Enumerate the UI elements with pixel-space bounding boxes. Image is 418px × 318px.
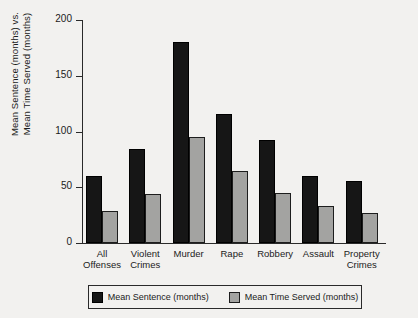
legend-item-sentence: Mean Sentence (months) bbox=[92, 292, 209, 303]
bar-mean-sentence bbox=[216, 114, 232, 243]
y-axis-tick-label: 100 bbox=[14, 125, 72, 136]
chart-legend: Mean Sentence (months) Mean Time Served … bbox=[88, 285, 362, 309]
bar-mean-time-served bbox=[362, 213, 378, 243]
y-axis-title: Mean Sentence (months) vs. Mean Time Ser… bbox=[9, 0, 43, 164]
legend-label-served: Mean Time Served (months) bbox=[245, 292, 359, 302]
y-axis-tick-label: 50 bbox=[14, 180, 72, 191]
y-axis-tick-label: 150 bbox=[14, 69, 72, 80]
y-axis-tick bbox=[76, 132, 82, 133]
y-axis-tick-label: 0 bbox=[14, 236, 72, 247]
bar-group bbox=[259, 20, 291, 243]
plot-area bbox=[83, 20, 386, 243]
legend-label-sentence: Mean Sentence (months) bbox=[108, 292, 209, 302]
bar-chart-figure: Mean Sentence (months) vs. Mean Time Ser… bbox=[0, 0, 418, 318]
bar-group bbox=[346, 20, 378, 243]
bar-group bbox=[129, 20, 161, 243]
bar-group bbox=[216, 20, 248, 243]
black-swatch-icon bbox=[92, 292, 103, 303]
bar-mean-sentence bbox=[346, 181, 362, 243]
bar-mean-time-served bbox=[102, 211, 118, 243]
y-axis-tick bbox=[76, 187, 82, 188]
bar-mean-sentence bbox=[173, 42, 189, 243]
bar-mean-sentence bbox=[86, 176, 102, 243]
y-axis-tick bbox=[76, 243, 82, 244]
legend-item-served: Mean Time Served (months) bbox=[229, 292, 359, 303]
bar-mean-time-served bbox=[232, 171, 248, 243]
bar-mean-time-served bbox=[318, 206, 334, 243]
y-axis-tick bbox=[76, 76, 82, 77]
bar-group bbox=[86, 20, 118, 243]
bar-mean-sentence bbox=[259, 140, 275, 243]
bar-mean-time-served bbox=[275, 193, 291, 243]
bar-mean-sentence bbox=[302, 176, 318, 243]
gray-swatch-icon bbox=[229, 292, 240, 303]
bar-mean-time-served bbox=[145, 194, 161, 243]
y-axis-tick-label: 200 bbox=[14, 13, 72, 24]
y-axis-tick bbox=[76, 20, 82, 21]
bar-group bbox=[173, 20, 205, 243]
bar-mean-sentence bbox=[129, 149, 145, 243]
bar-mean-time-served bbox=[189, 137, 205, 243]
bar-group bbox=[302, 20, 334, 243]
x-axis-tick-label: Property Crimes bbox=[332, 248, 392, 270]
